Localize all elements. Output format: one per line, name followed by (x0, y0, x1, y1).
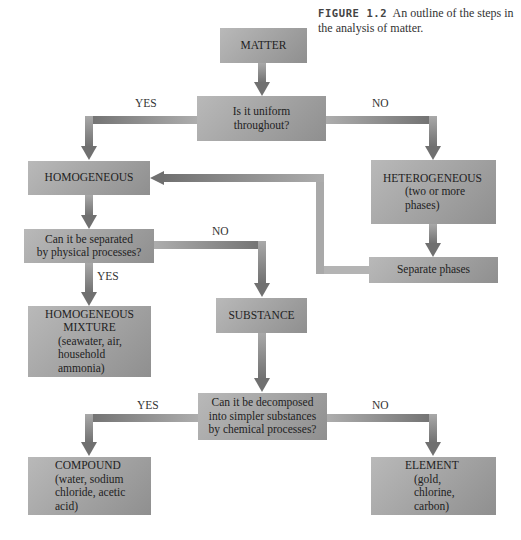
node-heterogeneous-line2: phases) (383, 199, 496, 213)
node-uniform-question: Is it uniform throughout? (197, 96, 326, 141)
node-mixture-line1: (seawater, air, (28, 335, 122, 349)
node-homogeneous-title: HOMOGENEOUS (45, 171, 134, 185)
node-separate-phases: Separate phases (369, 257, 498, 283)
node-compound-line1: (water, sodium (55, 473, 151, 487)
label-chemical-no: NO (372, 399, 389, 411)
node-physical-line1: Can it be separated (45, 233, 133, 247)
arrow-substance-to-chemical (254, 333, 270, 392)
node-element-line2: chlorine, (371, 486, 496, 500)
node-compound-title: COMPOUND (55, 459, 151, 473)
label-physical-yes: YES (97, 270, 119, 282)
label-uniform-no: NO (372, 97, 389, 109)
node-compound: COMPOUND (water, sodium chloride, acetic… (28, 457, 151, 515)
node-mixture-line3: ammonia) (28, 362, 105, 376)
node-matter: MATTER (220, 28, 307, 63)
node-chemical-line1: Can it be decomposed (212, 396, 314, 410)
arrow-matter-to-uniform (254, 63, 270, 96)
node-element-line3: carbon) (371, 500, 496, 514)
node-substance: SUBSTANCE (216, 298, 307, 333)
node-chemical-line2: into simpler substances (209, 410, 316, 424)
node-element-line1: (gold, (371, 473, 496, 487)
arrow-physical-no (154, 241, 270, 297)
arrow-heterogeneous-to-separate (425, 224, 441, 257)
node-element: ELEMENT (gold, chlorine, carbon) (371, 457, 496, 515)
node-matter-title: MATTER (241, 39, 287, 53)
node-substance-title: SUBSTANCE (228, 309, 294, 323)
node-mixture-title1: HOMOGENEOUS (45, 308, 134, 322)
arrow-chemical-no (327, 414, 441, 456)
node-element-title: ELEMENT (371, 459, 496, 473)
node-separate-phases-title: Separate phases (397, 263, 470, 277)
label-physical-no: NO (212, 225, 229, 237)
node-homogeneous-mixture: HOMOGENEOUS MIXTURE (seawater, air, hous… (28, 306, 151, 377)
node-chemical-line3: by chemical processes? (209, 423, 317, 437)
arrow-uniform-no (326, 116, 441, 160)
arrow-chemical-yes (81, 414, 198, 456)
arrow-physical-yes (81, 263, 97, 306)
node-uniform-line2: throughout? (234, 119, 290, 133)
arrow-uniform-yes (81, 116, 197, 160)
node-homogeneous: HOMOGENEOUS (28, 161, 150, 195)
arrow-homogeneous-to-physical (81, 195, 97, 229)
label-uniform-yes: YES (135, 97, 157, 109)
label-chemical-yes: YES (137, 399, 159, 411)
node-mixture-line2: household (28, 348, 105, 362)
figure-caption: FIGURE 1.2 An outline of the steps in th… (318, 6, 518, 36)
node-heterogeneous-line1: (two or more (383, 185, 496, 199)
node-physical-question: Can it be separated by physical processe… (24, 229, 154, 263)
node-compound-line2: chloride, acetic (55, 486, 151, 500)
node-chemical-question: Can it be decomposed into simpler substa… (198, 393, 327, 440)
node-compound-line3: acid) (55, 500, 151, 514)
figure-label: FIGURE 1.2 (318, 7, 387, 19)
node-uniform-line1: Is it uniform (233, 105, 291, 119)
node-heterogeneous-title: HETEROGENEOUS (383, 172, 496, 186)
node-mixture-title2: MIXTURE (63, 321, 115, 335)
node-heterogeneous: HETEROGENEOUS (two or more phases) (371, 160, 496, 224)
node-physical-line2: by physical processes? (37, 246, 142, 260)
